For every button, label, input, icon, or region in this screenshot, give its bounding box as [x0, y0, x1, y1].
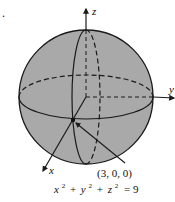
x-axis-label: x	[48, 164, 54, 176]
point-marker	[71, 118, 75, 122]
sphere-diagram: . z y x (3, 0, 0) x 2 + y 2 + z 2 = 9	[0, 0, 175, 202]
y-axis	[153, 97, 174, 98]
z-axis-label: z	[91, 5, 97, 17]
figure-marker: .	[2, 6, 5, 20]
y-axis-label: y	[168, 83, 174, 95]
equation: x 2 + y 2 + z 2 = 9	[53, 178, 139, 195]
svg-text:x 2 + y: x 2 + y 2 + z 2 = 9	[53, 178, 139, 195]
point-label: (3, 0, 0)	[97, 167, 132, 180]
